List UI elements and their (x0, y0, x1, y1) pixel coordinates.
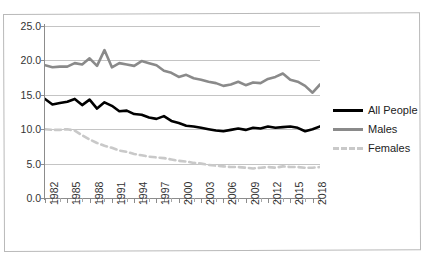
x-tick-mark (238, 198, 239, 202)
x-tick-mark (179, 198, 180, 203)
legend-label-males: Males (368, 124, 397, 135)
x-tick-mark (216, 198, 217, 202)
x-tick-mark (60, 198, 61, 202)
x-tick-mark (149, 198, 150, 202)
legend-swatch-males-icon (333, 128, 363, 131)
x-tick-mark (283, 198, 284, 202)
x-tick-mark (261, 198, 262, 202)
legend-item-males: Males (333, 120, 425, 139)
legend-item-females: Females (333, 139, 425, 158)
legend-label-females: Females (368, 143, 410, 154)
x-tick-mark (156, 198, 157, 203)
x-tick-mark (90, 198, 91, 203)
line-chart: 25.020.015.010.05.00.0 19821985198819911… (0, 0, 426, 259)
x-tick-mark (112, 198, 113, 203)
legend-item-all-people: All People (333, 101, 425, 120)
x-tick-mark (194, 198, 195, 202)
x-tick-mark (45, 198, 46, 203)
series-line-males (45, 50, 320, 93)
x-tick-mark (313, 198, 314, 203)
x-tick-mark (223, 198, 224, 203)
x-tick-mark (201, 198, 202, 203)
series-line-all-people (45, 99, 320, 131)
legend-swatch-females-icon (333, 147, 363, 150)
x-tick-mark (246, 198, 247, 203)
plot-series-area (45, 26, 320, 198)
series-line-females (45, 129, 320, 168)
chart-legend: All People Males Females (333, 101, 425, 158)
x-tick-mark (268, 198, 269, 203)
x-tick-mark (82, 198, 83, 202)
x-tick-mark (67, 198, 68, 203)
x-tick-mark (134, 198, 135, 203)
x-tick-mark (171, 198, 172, 202)
x-tick-mark (127, 198, 128, 202)
x-tick-mark (290, 198, 291, 203)
legend-swatch-all-people-icon (333, 109, 363, 112)
x-tick-mark (305, 198, 306, 202)
legend-label-all-people: All People (368, 105, 418, 116)
